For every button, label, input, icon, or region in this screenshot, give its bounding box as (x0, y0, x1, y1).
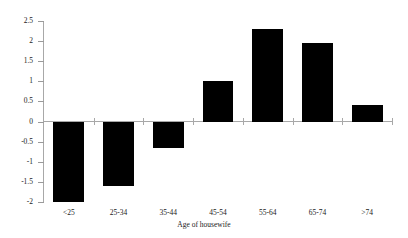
y-axis-tick-mark (38, 182, 44, 183)
y-axis-tick-mark (38, 101, 44, 102)
y-axis-tick-mark (38, 202, 44, 203)
y-axis-tick-label: 1.5 (24, 55, 33, 66)
x-axis-tick-mark (193, 118, 194, 125)
y-axis-tick-mark (38, 81, 44, 82)
y-axis-tick-label: -1 (27, 156, 33, 167)
bar (203, 81, 234, 121)
x-axis-title: Age of housewife (0, 219, 408, 230)
x-axis-tick-mark (392, 118, 393, 125)
y-axis-tick-label: -2 (27, 196, 33, 207)
y-axis-tick-mark (38, 122, 44, 123)
x-axis-tick-mark (342, 118, 343, 125)
y-axis-line (43, 21, 44, 202)
x-axis-category-label: <25 (44, 207, 94, 218)
x-axis-category-label: 25-34 (94, 207, 144, 218)
x-axis-tick-mark (293, 118, 294, 125)
x-axis-tick-mark (94, 118, 95, 125)
y-axis-tick-mark (38, 162, 44, 163)
bar (53, 122, 84, 202)
x-axis-category-label: 45-54 (193, 207, 243, 218)
y-axis-tick-label: 2 (29, 35, 33, 46)
bar (302, 43, 333, 121)
y-axis-tick-label: -1.5 (21, 176, 33, 187)
y-axis-tick-label: -0.5 (21, 136, 33, 147)
y-axis-tick-mark (38, 41, 44, 42)
bar (252, 29, 283, 122)
x-axis-category-label: 55-64 (243, 207, 293, 218)
y-axis-tick-mark (38, 142, 44, 143)
y-axis-tick-label: 2.5 (24, 15, 33, 26)
y-axis-tick-label: 0.5 (24, 95, 33, 106)
x-axis-category-label: 35-44 (143, 207, 193, 218)
x-axis-tick-mark (243, 118, 244, 125)
bar (153, 122, 184, 148)
bar (103, 122, 134, 186)
bar-chart: 2.521.510.50-0.5-1-1.5-2 <2525-3435-4445… (0, 0, 408, 238)
y-axis-tick-label: 1 (29, 75, 33, 86)
y-axis-tick-mark (38, 21, 44, 22)
x-axis-category-label: >74 (342, 207, 392, 218)
y-axis-tick-label: 0 (29, 116, 33, 127)
y-axis-tick-mark (38, 61, 44, 62)
bar (352, 105, 383, 121)
x-axis-tick-mark (143, 118, 144, 125)
x-axis-category-label: 65-74 (293, 207, 343, 218)
